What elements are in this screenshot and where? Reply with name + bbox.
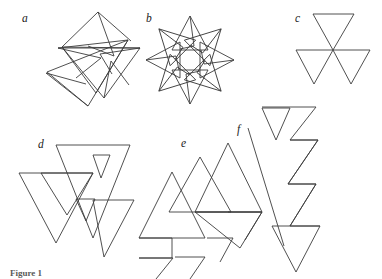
figure-canvas: a b: [0, 0, 382, 279]
figure-caption-clip: Figure 1: [10, 268, 150, 279]
figure-sheet: a b: [0, 0, 382, 279]
panel-b-label: b: [146, 12, 152, 24]
canvas-background: [0, 0, 382, 279]
panel-d-label: d: [38, 138, 44, 150]
figure-caption: Figure 1: [10, 268, 42, 278]
panel-e-label: e: [181, 137, 186, 149]
panel-a-label: a: [22, 12, 28, 24]
panel-c-label: c: [295, 12, 300, 24]
